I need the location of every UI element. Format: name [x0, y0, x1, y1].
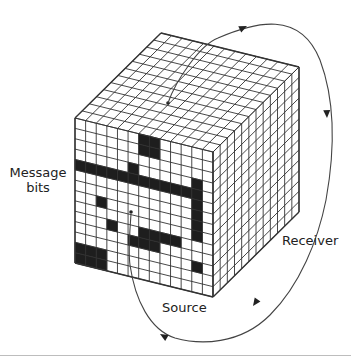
arrowhead-icon [160, 334, 169, 341]
message-label-line2: bits [8, 180, 68, 195]
bottom-divider [0, 355, 351, 356]
arrowhead-icon [323, 110, 330, 118]
arrowhead-icon [253, 297, 260, 306]
source-label: Source [162, 300, 207, 315]
source-point [129, 210, 133, 214]
message-label-line1: Message [8, 165, 68, 180]
message-bits-label: Message bits [8, 165, 68, 195]
receiver-label: Receiver [282, 233, 338, 248]
